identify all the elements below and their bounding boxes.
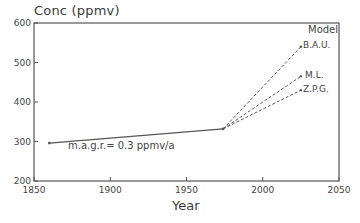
x-tick-label: 1900 [99,185,122,195]
plot-frame [34,23,339,181]
projection-line [223,47,301,129]
projection-line [223,76,301,129]
y-tick-label: 400 [14,97,31,107]
y-axis-label: Conc (ppmv) [34,3,120,18]
data-lines [48,46,302,145]
x-tick-label: 2050 [328,185,351,195]
legend-title: Model [308,24,338,35]
projection-endpoint [300,46,302,48]
projection-endpoint [300,75,302,77]
x-tick-label: 1850 [23,185,46,195]
axis-ticks: 18501900195020002050200300400500600 [14,18,351,195]
x-tick-label: 2000 [251,185,274,195]
projection-endpoint [300,89,302,91]
plot-border [34,23,339,181]
y-tick-label: 500 [14,58,31,68]
y-tick-label: 300 [14,137,31,147]
growth-rate-annotation: m.a.g.r.= 0.3 ppmv/a [68,140,175,151]
series-label-ml: M.L. [305,70,324,80]
start-point [48,142,51,145]
projection-line [223,90,301,129]
y-tick-label: 200 [14,176,31,186]
series-label-zpg: Z.P.G. [303,84,329,94]
series-label-bau: B.A.U. [303,40,330,50]
y-tick-label: 600 [14,18,31,28]
chart-canvas: 18501900195020002050200300400500600 [0,0,360,223]
x-axis-label: Year [172,198,200,213]
x-tick-label: 1950 [175,185,198,195]
